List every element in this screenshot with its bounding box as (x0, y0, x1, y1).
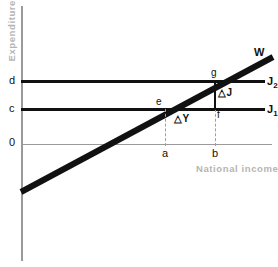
withdrawals-line-w-svg (0, 0, 278, 267)
annotation-delta-j: △J (218, 88, 233, 98)
x-axis-line (21, 144, 272, 145)
dashed-dropline-b (215, 109, 216, 146)
x-tick-label-a: a (162, 148, 168, 159)
curve-label-w: W (254, 47, 264, 58)
withdrawals-line-w-container (0, 0, 278, 267)
x-tick-label-b: b (212, 148, 218, 159)
point-label-f: f (217, 110, 220, 120)
annotation-delta-y: △Y (174, 114, 190, 124)
y-tick-label-c: c (9, 103, 15, 114)
y-tick-label-d: d (9, 75, 15, 86)
curve-label-j1: J1 (267, 104, 278, 118)
keynesian-cross-chart: d c 0 a b e g f W J2 J1 △J △Y Expenditur… (0, 0, 278, 267)
curve-label-j2: J2 (267, 76, 278, 90)
point-label-e: e (156, 97, 162, 107)
y-axis-line (21, 6, 23, 261)
curve-label-j2-subscript: 2 (273, 81, 277, 90)
delta-j-segment (214, 81, 216, 110)
point-label-g: g (211, 68, 217, 78)
dashed-dropline-a (165, 109, 166, 146)
injections-line-j2 (21, 80, 265, 83)
y-axis-title: Expenditure (7, 0, 17, 66)
x-axis-title: National income (196, 164, 278, 174)
curve-label-j1-subscript: 1 (273, 109, 277, 118)
origin-label: 0 (9, 137, 15, 148)
injections-line-j1 (21, 108, 265, 111)
